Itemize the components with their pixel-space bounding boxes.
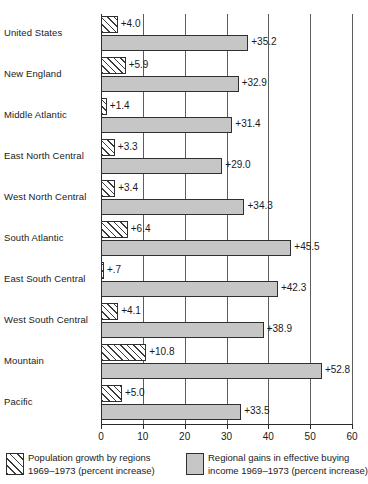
- chart-row: East South Central+.7+42.3: [0, 260, 368, 301]
- bar-population-growth: [101, 16, 118, 33]
- bar-population-growth: [101, 303, 118, 320]
- tick-mark-0: [101, 424, 102, 429]
- bar-value-buying-income-gains: +45.5: [294, 241, 319, 253]
- bar-value-population-growth: +4.0: [121, 18, 141, 30]
- tick-mark-60: [352, 424, 353, 429]
- legend-item-population-growth: Population growth by regions 1969–1973 (…: [6, 452, 155, 477]
- chart-row: Mountain+10.8+52.8: [0, 342, 368, 383]
- category-label-south-atlantic: South Atlantic: [4, 232, 98, 244]
- chart-row: New England+5.9+32.9: [0, 55, 368, 96]
- legend-label-line1: Regional gains in effective buying: [208, 452, 349, 463]
- bar-population-growth: [101, 180, 115, 197]
- bar-value-population-growth: +4.1: [121, 305, 141, 317]
- bar-buying-income-gains: [101, 281, 278, 297]
- chart-row: South Atlantic+6.4+45.5: [0, 219, 368, 260]
- x-tick-label-10: 10: [137, 431, 148, 443]
- category-label-middle-atlantic: Middle Atlantic: [4, 109, 98, 121]
- bar-value-buying-income-gains: +34.3: [247, 200, 272, 212]
- category-label-pacific: Pacific: [4, 396, 98, 408]
- chart-row: Middle Atlantic+1.4+31.4: [0, 96, 368, 137]
- bar-buying-income-gains: [101, 117, 232, 133]
- chart-legend: Population growth by regions 1969–1973 (…: [0, 452, 368, 484]
- bar-population-growth: [101, 57, 126, 74]
- category-label-mountain: Mountain: [4, 355, 98, 367]
- x-tick-label-40: 40: [263, 431, 274, 443]
- category-label-united-states: United States: [4, 27, 98, 39]
- bar-population-growth: [101, 139, 115, 156]
- bar-value-buying-income-gains: +31.4: [235, 118, 260, 130]
- bar-buying-income-gains: [101, 404, 241, 420]
- tick-mark-10: [143, 424, 144, 429]
- bar-value-buying-income-gains: +33.5: [244, 405, 269, 417]
- bar-buying-income-gains: [101, 322, 264, 338]
- category-label-new-england: New England: [4, 68, 98, 80]
- bar-value-buying-income-gains: +52.8: [325, 364, 350, 376]
- bar-value-population-growth: +3.3: [118, 141, 138, 153]
- bar-buying-income-gains: [101, 158, 222, 174]
- bar-value-buying-income-gains: +42.3: [281, 282, 306, 294]
- bar-population-growth: [101, 385, 122, 402]
- chart-row: West North Central+3.4+34.3: [0, 178, 368, 219]
- bar-value-buying-income-gains: +38.9: [267, 323, 292, 335]
- chart-row: United States+4.0+35.2: [0, 14, 368, 55]
- chart-row: East North Central+3.3+29.0: [0, 137, 368, 178]
- category-label-west-south-central: West South Central: [4, 314, 98, 326]
- bar-buying-income-gains: [101, 76, 239, 92]
- x-tick-label-20: 20: [179, 431, 190, 443]
- tick-mark-40: [268, 424, 269, 429]
- legend-label-line2: 1969–1973 (percent increase): [28, 465, 155, 478]
- bar-value-buying-income-gains: +29.0: [225, 159, 250, 171]
- bar-value-population-growth: +3.4: [118, 182, 138, 194]
- legend-label-line1: Population growth by regions: [28, 452, 151, 463]
- category-label-west-north-central: West North Central: [4, 191, 98, 203]
- tick-mark-50: [310, 424, 311, 429]
- legend-swatch-hatched-icon: [6, 453, 24, 475]
- legend-swatch-solid-icon: [186, 453, 204, 475]
- bar-value-buying-income-gains: +32.9: [242, 77, 267, 89]
- category-label-east-south-central: East South Central: [4, 273, 98, 285]
- bar-population-growth: [101, 262, 104, 279]
- legend-item-buying-income: Regional gains in effective buying incom…: [186, 452, 368, 477]
- bar-population-growth: [101, 98, 107, 115]
- bar-buying-income-gains: [101, 35, 248, 51]
- bar-buying-income-gains: [101, 240, 291, 256]
- chart-row: West South Central+4.1+38.9: [0, 301, 368, 342]
- bar-value-population-growth: +1.4: [110, 100, 130, 112]
- bar-value-population-growth: +10.8: [149, 346, 174, 358]
- bar-value-population-growth: +5.9: [129, 59, 149, 71]
- x-tick-label-50: 50: [305, 431, 316, 443]
- x-tick-label-30: 30: [221, 431, 232, 443]
- bar-buying-income-gains: [101, 199, 244, 215]
- bar-population-growth: [101, 221, 128, 238]
- x-tick-label-0: 0: [98, 431, 104, 443]
- tick-mark-30: [227, 424, 228, 429]
- bar-value-population-growth: +.7: [107, 264, 121, 276]
- legend-label-population-growth: Population growth by regions 1969–1973 (…: [28, 452, 155, 477]
- tick-mark-20: [185, 424, 186, 429]
- chart-row: Pacific+5.0+33.5: [0, 383, 368, 424]
- x-tick-label-60: 60: [346, 431, 357, 443]
- legend-label-buying-income: Regional gains in effective buying incom…: [208, 452, 368, 477]
- bar-buying-income-gains: [101, 363, 322, 379]
- bar-value-buying-income-gains: +35.2: [251, 36, 276, 48]
- bar-population-growth: [101, 344, 146, 361]
- bar-value-population-growth: +5.0: [125, 387, 145, 399]
- chart-root: United States+4.0+35.2New England+5.9+32…: [0, 0, 368, 484]
- category-label-east-north-central: East North Central: [4, 150, 98, 162]
- legend-label-line2: income 1969–1973 (percent increase): [208, 465, 368, 478]
- bar-value-population-growth: +6.4: [131, 223, 151, 235]
